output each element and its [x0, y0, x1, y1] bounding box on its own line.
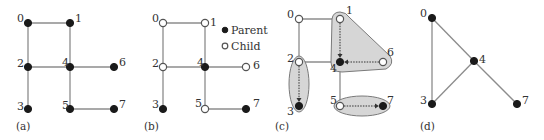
node-2 — [24, 63, 31, 70]
node-label-5: 5 — [330, 94, 337, 107]
node-3 — [24, 105, 31, 112]
caption-b: (b) — [144, 120, 159, 132]
node-3-parent — [159, 105, 166, 112]
caption-a: (a) — [16, 120, 30, 132]
node-5-child — [201, 105, 208, 112]
node-5-child — [336, 102, 343, 109]
node-label-0: 0 — [420, 7, 427, 20]
legend-child-icon — [222, 43, 228, 49]
node-1-child — [201, 19, 208, 26]
node-label-4: 4 — [62, 56, 69, 69]
node-label-1: 1 — [346, 4, 353, 17]
node-label-0: 0 — [17, 12, 24, 25]
node-7-parent — [242, 105, 249, 112]
edge-4-7 — [474, 61, 517, 104]
node-2-child — [159, 63, 166, 70]
node-6-child — [242, 63, 249, 70]
legend-child-label: Child — [231, 40, 261, 53]
caption-d: (d) — [420, 120, 435, 132]
legend-parent-label: Parent — [231, 24, 268, 37]
node-label-3: 3 — [420, 94, 427, 107]
node-label-7: 7 — [522, 94, 529, 107]
node-4 — [470, 57, 477, 64]
node-label-3: 3 — [152, 98, 159, 111]
node-label-0: 0 — [152, 12, 159, 25]
edge-0-4 — [432, 18, 474, 61]
node-6-child — [379, 58, 386, 65]
panel-b: 0 1 2 4 6 3 5 7 Parent Child (b) — [144, 12, 268, 132]
node-0 — [24, 19, 31, 26]
node-label-6: 6 — [387, 46, 394, 59]
node-label-3: 3 — [17, 100, 24, 113]
node-label-2: 2 — [287, 52, 294, 65]
node-7-parent — [379, 102, 386, 109]
node-3 — [428, 100, 435, 107]
caption-c: (c) — [275, 120, 289, 132]
node-label-5: 5 — [195, 97, 202, 110]
node-label-4: 4 — [197, 56, 204, 69]
legend-parent-icon — [222, 27, 228, 33]
node-7 — [513, 100, 520, 107]
panel-a: 0 1 2 4 6 3 5 7 (a) — [16, 12, 126, 132]
node-label-5: 5 — [62, 99, 69, 112]
node-label-1: 1 — [75, 12, 82, 25]
panel-a-nodes — [24, 19, 117, 112]
node-1-child — [336, 15, 343, 22]
node-label-7: 7 — [253, 97, 260, 110]
node-label-4: 4 — [479, 53, 486, 66]
panel-c: 0 1 2 4 6 3 5 7 (c) — [275, 4, 394, 132]
panel-a-labels: 0 1 2 4 6 3 5 7 — [17, 12, 126, 113]
edge-3-4 — [432, 61, 474, 104]
node-0-child — [295, 15, 302, 22]
legend: Parent Child — [222, 24, 268, 53]
node-label-0: 0 — [287, 8, 294, 21]
node-3-parent — [295, 102, 302, 109]
node-2-child — [295, 58, 302, 65]
node-1 — [66, 19, 73, 26]
node-label-2: 2 — [152, 57, 159, 70]
node-0-child — [159, 19, 166, 26]
node-label-3: 3 — [287, 105, 294, 118]
node-label-6: 6 — [253, 59, 260, 72]
node-label-7: 7 — [119, 98, 126, 111]
node-label-7: 7 — [387, 94, 394, 107]
node-7 — [110, 105, 117, 112]
node-label-6: 6 — [119, 56, 126, 69]
panel-d: 0 4 3 7 (d) — [420, 7, 529, 132]
node-6 — [110, 63, 117, 70]
graph-coarsening-figure: 0 1 2 4 6 3 5 7 (a) — [0, 0, 544, 140]
node-label-4: 4 — [330, 62, 337, 75]
node-label-1: 1 — [210, 16, 217, 29]
node-label-2: 2 — [17, 57, 24, 70]
node-4-parent — [336, 58, 343, 65]
node-0 — [428, 14, 435, 21]
